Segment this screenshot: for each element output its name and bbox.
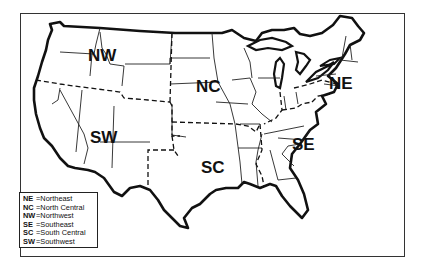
- region-labels: NW NC NE SW SC SE: [88, 46, 353, 177]
- legend-item-sw: SW=Southwest: [23, 238, 94, 247]
- legend-abbr: SW: [23, 238, 36, 247]
- map-legend: NE=Northeast NC=North Central NW=Northwe…: [19, 192, 98, 248]
- legend-name: Southwest: [40, 237, 75, 246]
- region-label-sc: SC: [201, 158, 225, 177]
- lake-michigan: [274, 58, 284, 88]
- region-label-se: SE: [292, 135, 315, 154]
- region-label-nw: NW: [88, 46, 117, 65]
- region-label-sw: SW: [90, 128, 118, 147]
- region-label-ne: NE: [329, 74, 353, 93]
- region-label-nc: NC: [196, 77, 221, 96]
- lake-huron: [296, 52, 310, 74]
